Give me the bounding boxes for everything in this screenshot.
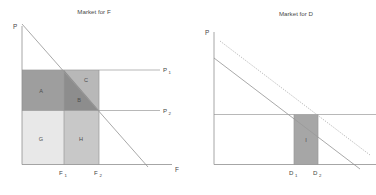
region-label-b: B (77, 97, 81, 103)
svg-text:1: 1 (65, 173, 68, 178)
svg-text:F: F (59, 169, 63, 176)
svg-text:P: P (163, 107, 167, 114)
svg-text:1: 1 (295, 173, 298, 178)
region-label-a: A (39, 88, 43, 94)
svg-text:1: 1 (169, 70, 172, 75)
demand-curve-initial (214, 58, 360, 169)
svg-text:D: D (289, 169, 294, 176)
price-label-p1: P 1 (163, 66, 172, 75)
chart-title-market-for-f: Market for F (77, 8, 111, 15)
price-label-p2: P 2 (163, 107, 172, 116)
quantity-label-d2: D 2 (313, 169, 322, 178)
region-label-h: H (79, 136, 83, 142)
chart-title-market-for-d: Market for D (279, 10, 314, 17)
svg-text:D: D (313, 169, 318, 176)
region-label-g: G (39, 136, 43, 142)
quantity-label-f1: F 1 (59, 169, 68, 178)
chart-market-for-d: Market for D P D 1 D 2 I (188, 0, 376, 195)
svg-text:2: 2 (100, 173, 103, 178)
quantity-label-d1: D 1 (289, 169, 298, 178)
region-a-shape (22, 70, 64, 111)
region-label-c: C (84, 77, 88, 83)
quantity-label-f2: F 2 (94, 169, 103, 178)
y-axis-label-d: P (205, 29, 209, 36)
x-axis-label-f: F (175, 166, 179, 173)
figure-root: Market for F P F P 1 (0, 0, 376, 195)
svg-text:2: 2 (169, 111, 172, 116)
chart-market-for-f: Market for F P F P 1 (0, 0, 188, 195)
svg-text:2: 2 (319, 173, 322, 178)
svg-text:P: P (163, 66, 167, 73)
svg-text:F: F (94, 169, 98, 176)
y-axis-label-f: P (13, 23, 17, 30)
